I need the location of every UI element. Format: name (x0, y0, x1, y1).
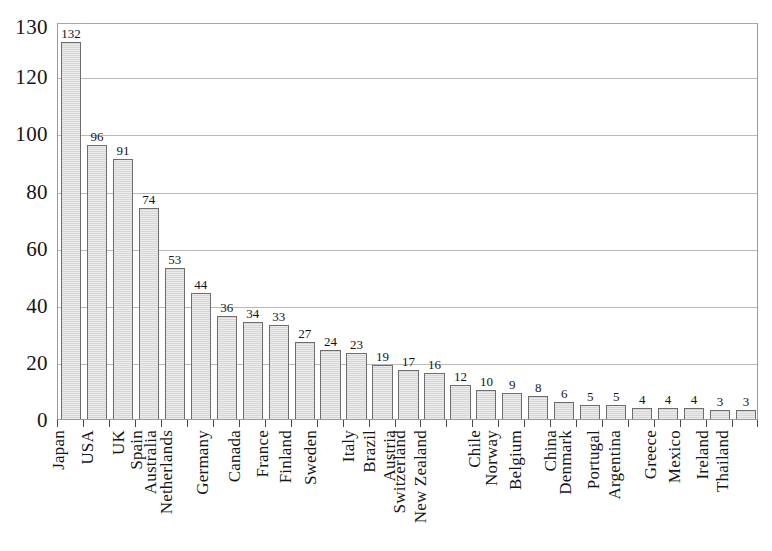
bar-value-label: 36 (220, 301, 233, 314)
bar[interactable] (372, 365, 392, 419)
bar[interactable] (554, 402, 574, 419)
bar-value-label: 74 (142, 193, 155, 206)
x-axis-category-label: Denmark (557, 430, 574, 495)
bar-value-label: 4 (639, 393, 646, 406)
bar[interactable] (398, 370, 418, 419)
x-label-slot: USA (83, 428, 109, 548)
bar-slot: 4 (681, 24, 707, 419)
bar[interactable] (165, 268, 185, 419)
x-tick (395, 420, 396, 427)
bar-slot: 34 (240, 24, 266, 419)
x-tick (57, 420, 58, 427)
bar-value-label: 27 (298, 327, 311, 340)
bar[interactable] (736, 410, 756, 419)
bar[interactable] (269, 325, 289, 419)
bar-slot: 44 (188, 24, 214, 419)
bar-slot: 3 (707, 24, 733, 419)
y-tick-label: 100 (15, 124, 48, 145)
plot-area: 1329691745344363433272423191716121098655… (57, 23, 758, 420)
x-tick (524, 420, 525, 427)
bar[interactable] (476, 390, 496, 419)
x-axis-category-label: Norway (483, 430, 500, 486)
bar-slot: 36 (214, 24, 240, 419)
bar[interactable] (295, 342, 315, 419)
bar-value-label: 6 (561, 387, 568, 400)
bar-value-label: 132 (61, 27, 81, 40)
x-tick (602, 420, 603, 427)
x-tick (498, 420, 499, 427)
bar-value-label: 10 (480, 375, 493, 388)
bar-slot: 19 (370, 24, 396, 419)
x-tick (265, 420, 266, 427)
bar[interactable] (320, 350, 340, 419)
bar-slot: 12 (447, 24, 473, 419)
bar[interactable] (450, 385, 470, 419)
bar-slot: 132 (58, 24, 84, 419)
bar-value-label: 24 (324, 335, 337, 348)
bar[interactable] (606, 405, 626, 419)
x-label-slot: Thailand (732, 428, 758, 548)
x-axis-category-label: Ireland (694, 430, 711, 480)
bar-slot: 33 (266, 24, 292, 419)
x-axis-category-label: Switzerland (392, 430, 409, 513)
bar-slot: 16 (421, 24, 447, 419)
bar[interactable] (346, 353, 366, 419)
x-axis-category-label: Netherlands (158, 430, 175, 514)
x-axis-category-label: France (254, 430, 271, 477)
bar-value-label: 53 (168, 253, 181, 266)
bar-slot: 8 (525, 24, 551, 419)
x-tick (732, 420, 733, 427)
bar[interactable] (113, 159, 133, 419)
bar[interactable] (528, 396, 548, 419)
bar[interactable] (710, 410, 730, 419)
x-axis-category-label: Sweden (302, 430, 319, 485)
bar-slot: 24 (318, 24, 344, 419)
x-tick (83, 420, 84, 427)
bar-slot: 17 (396, 24, 422, 419)
bar[interactable] (217, 316, 237, 419)
bar[interactable] (658, 408, 678, 419)
bar-slot: 6 (551, 24, 577, 419)
bar[interactable] (61, 42, 81, 419)
bar[interactable] (139, 208, 159, 419)
bar-slot: 27 (292, 24, 318, 419)
bar-slot: 4 (629, 24, 655, 419)
x-tick (628, 420, 629, 427)
bar-slot: 91 (110, 24, 136, 419)
bar-value-label: 17 (402, 355, 415, 368)
bar-value-label: 16 (428, 358, 441, 371)
bar[interactable] (87, 145, 107, 419)
bar-slot: 3 (733, 24, 759, 419)
x-axis-category-label: Thailand (714, 430, 731, 492)
x-axis-category-label: Chile (466, 430, 483, 468)
bar[interactable] (191, 293, 211, 419)
bar[interactable] (684, 408, 704, 419)
x-tick (420, 420, 421, 427)
x-axis-category-label: Mexico (667, 430, 684, 483)
bar-value-label: 3 (717, 395, 724, 408)
x-tick (161, 420, 162, 427)
x-axis-category-label: Portugal (586, 430, 603, 489)
bar-value-label: 44 (194, 278, 207, 291)
x-tick (187, 420, 188, 427)
bar[interactable] (502, 393, 522, 419)
bar[interactable] (424, 373, 444, 419)
x-axis-category-label: Canada (226, 430, 243, 482)
bar-slot: 4 (655, 24, 681, 419)
x-tick (680, 420, 681, 427)
bar[interactable] (580, 405, 600, 419)
bar-value-label: 8 (535, 381, 542, 394)
bar[interactable] (632, 408, 652, 419)
x-axis-category-label: Japan (50, 430, 67, 470)
bar-slot: 23 (344, 24, 370, 419)
bars-group: 1329691745344363433272423191716121098655… (58, 24, 757, 419)
x-tick (317, 420, 318, 427)
x-tick (446, 420, 447, 427)
x-tick (550, 420, 551, 427)
y-tick-label: 130 (15, 17, 48, 38)
bar-slot: 9 (499, 24, 525, 419)
y-tick-label: 60 (26, 238, 48, 259)
x-axis-category-label: Germany (193, 430, 210, 495)
bar[interactable] (243, 322, 263, 419)
bar-value-label: 5 (613, 390, 620, 403)
